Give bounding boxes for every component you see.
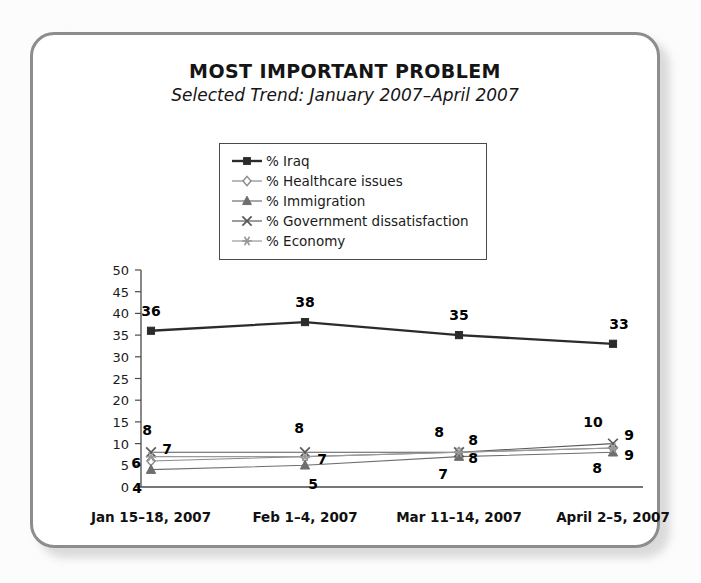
legend-item-label: % Immigration	[264, 193, 365, 209]
x-marker-icon	[230, 212, 264, 230]
data-point-label: 5	[308, 476, 318, 492]
legend-item-diamond: % Healthcare issues	[230, 171, 476, 191]
y-axis-tick-label: 0	[121, 480, 129, 495]
y-axis-tick-label: 15	[112, 414, 129, 429]
data-point-label: 8	[434, 424, 444, 440]
data-point-label: 4	[132, 480, 142, 496]
y-axis-tick-label: 45	[112, 284, 129, 299]
legend-item-asterisk: % Economy	[230, 231, 476, 251]
data-point-label: 36	[141, 303, 160, 319]
legend-item-square: % Iraq	[230, 151, 476, 171]
square-marker-icon	[230, 152, 264, 170]
page-title: MOST IMPORTANT PROBLEM	[33, 60, 657, 82]
x-axis-tick-label: Mar 11–14, 2007	[396, 509, 522, 525]
plot-area: Jan 15–18, 2007Feb 1–4, 2007Mar 11–14, 2…	[111, 270, 643, 487]
data-point-label: 38	[295, 294, 314, 310]
data-point-label: 8	[468, 450, 478, 466]
triangle-marker-icon	[230, 192, 264, 210]
data-point-label: 8	[142, 422, 152, 438]
legend-item-label: % Government dissatisfaction	[264, 213, 469, 229]
legend-item-triangle: % Immigration	[230, 191, 476, 211]
legend-item-label: % Economy	[264, 233, 345, 249]
data-point-label: 9	[624, 447, 634, 463]
data-point-label: 7	[317, 451, 327, 467]
series-square	[147, 319, 616, 348]
data-point-label: 9	[624, 427, 634, 443]
series-triangle	[146, 447, 617, 473]
page-subtitle: Selected Trend: January 2007–April 2007	[33, 85, 657, 105]
x-axis-tick-label: Jan 15–18, 2007	[91, 509, 211, 525]
y-axis-tick-label: 5	[121, 458, 129, 473]
chart-legend: % Iraq% Healthcare issues% Immigration% …	[219, 143, 487, 260]
y-axis-tick-label: 25	[112, 371, 129, 386]
y-axis-tick-label: 20	[112, 393, 129, 408]
data-point-label: 8	[592, 460, 602, 476]
diamond-marker-icon	[230, 172, 264, 190]
data-point-label: 10	[583, 414, 602, 430]
data-point-label: 7	[438, 466, 448, 482]
data-point-label: 33	[609, 316, 628, 332]
data-point-label: 8	[468, 432, 478, 448]
y-axis-tick-label: 10	[112, 436, 129, 451]
x-axis-tick-label: Feb 1–4, 2007	[252, 509, 357, 525]
legend-item-label: % Iraq	[264, 153, 310, 169]
asterisk-marker-icon	[230, 232, 264, 250]
y-axis-tick-label: 30	[112, 349, 129, 364]
y-axis-tick-label: 35	[112, 328, 129, 343]
y-axis-tick-label: 50	[112, 263, 129, 278]
data-point-label: 6	[131, 455, 141, 471]
y-axis-tick-label: 40	[112, 306, 129, 321]
legend-item-x: % Government dissatisfaction	[230, 211, 476, 231]
x-axis-tick-label: April 2–5, 2007	[556, 509, 670, 525]
legend-item-label: % Healthcare issues	[264, 173, 403, 189]
chart-series-layer	[111, 270, 643, 487]
data-point-label: 35	[449, 307, 468, 323]
data-point-label: 7	[162, 441, 172, 457]
chart-card: MOST IMPORTANT PROBLEM Selected Trend: J…	[30, 32, 660, 548]
data-point-label: 8	[294, 420, 304, 436]
